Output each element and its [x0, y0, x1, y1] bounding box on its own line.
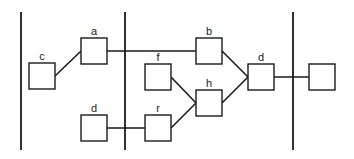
node-box: [196, 38, 222, 64]
node-d1: d: [81, 102, 107, 141]
node-r: r: [145, 102, 171, 141]
node-box: [81, 38, 107, 64]
edge-h-d2: [222, 77, 248, 103]
node-label: c: [39, 50, 45, 62]
node-box: [248, 64, 274, 90]
diagram-canvas: cadfrbhd: [0, 0, 354, 159]
node-h: h: [196, 77, 222, 116]
node-box: [309, 64, 335, 90]
edge-r-h: [171, 103, 196, 128]
node-box: [145, 115, 171, 141]
node-box: [81, 115, 107, 141]
edge-b-d2: [222, 51, 248, 77]
edge-c-a: [55, 51, 81, 76]
node-d2: d: [248, 51, 274, 90]
node-box: [29, 63, 55, 89]
node-box: [196, 90, 222, 116]
node-a: a: [81, 25, 107, 64]
node-label: d: [258, 51, 264, 63]
node-label: b: [206, 25, 212, 37]
node-label: d: [91, 102, 97, 114]
node-c: c: [29, 50, 55, 89]
node-box: [145, 64, 171, 90]
node-f: f: [145, 51, 171, 90]
node-b: b: [196, 25, 222, 64]
edge-f-h: [171, 77, 196, 103]
node-label: r: [156, 102, 160, 114]
node-label: f: [156, 51, 160, 63]
node-label: h: [206, 77, 212, 89]
node-out: [309, 64, 335, 90]
node-label: a: [91, 25, 98, 37]
